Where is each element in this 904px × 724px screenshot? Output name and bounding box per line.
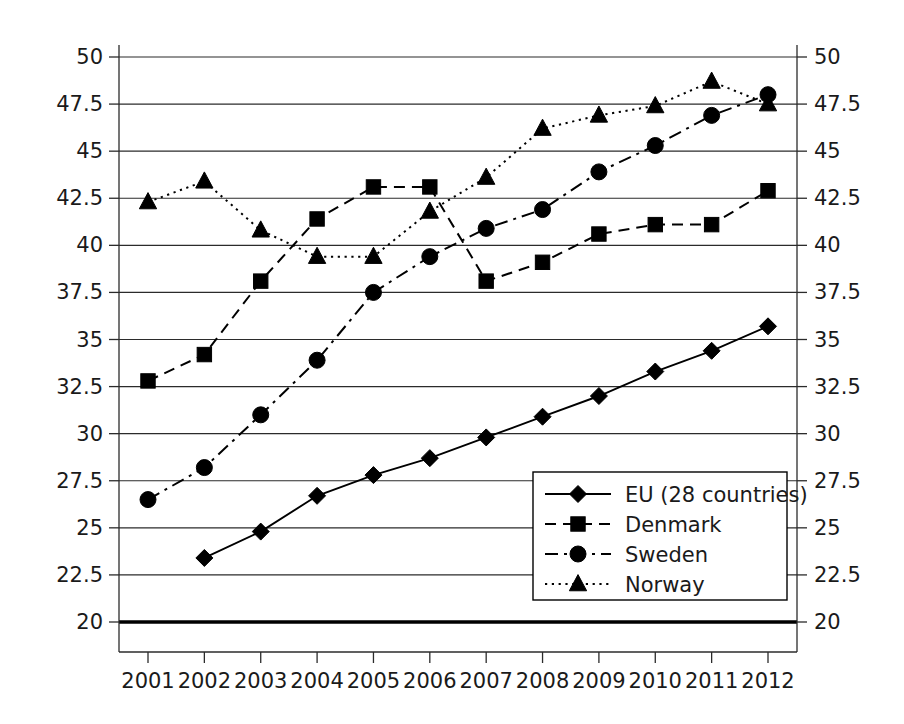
x-tick-label: 2001 xyxy=(121,669,174,693)
data-point-marker xyxy=(591,164,607,180)
data-point-marker xyxy=(421,202,438,218)
y-tick-label-left: 20 xyxy=(76,610,103,634)
data-point-marker xyxy=(590,388,607,405)
legend-marker-circle-icon xyxy=(570,546,586,562)
data-point-marker xyxy=(253,407,269,423)
data-point-marker xyxy=(478,429,495,446)
chart-canvas: 2022.52527.53032.53537.54042.54547.550 2… xyxy=(0,0,904,724)
legend-label: Denmark xyxy=(625,513,722,537)
y-tick-label-right: 50 xyxy=(814,45,841,69)
data-point-marker xyxy=(534,119,551,135)
y-tick-label-right: 20 xyxy=(814,610,841,634)
x-tick-label: 2008 xyxy=(516,669,569,693)
y-tick-label-right: 27.5 xyxy=(814,469,861,493)
legend-marker-square-icon xyxy=(571,517,585,531)
legend-label: EU (28 countries) xyxy=(625,483,808,507)
data-point-marker xyxy=(647,363,664,380)
y-tick-label-right: 22.5 xyxy=(814,563,861,587)
data-point-marker xyxy=(647,97,664,113)
y-axis-right-ticks: 2022.52527.53032.53537.54042.54547.550 xyxy=(797,45,861,634)
data-point-marker xyxy=(196,549,213,566)
series-denmark xyxy=(141,180,775,388)
data-point-marker xyxy=(139,193,156,209)
data-point-marker xyxy=(703,342,720,359)
y-tick-label-left: 37.5 xyxy=(56,280,103,304)
data-point-marker xyxy=(309,487,326,504)
y-tick-label-left: 27.5 xyxy=(56,469,103,493)
x-tick-label: 2007 xyxy=(459,669,512,693)
y-tick-label-right: 47.5 xyxy=(814,92,861,116)
data-point-marker xyxy=(534,408,551,425)
data-point-marker xyxy=(254,274,268,288)
y-tick-label-left: 47.5 xyxy=(56,92,103,116)
data-point-marker xyxy=(761,184,775,198)
y-tick-label-left: 30 xyxy=(76,422,103,446)
series-line xyxy=(148,187,768,381)
data-point-marker xyxy=(366,180,380,194)
data-point-marker xyxy=(648,217,662,231)
data-point-marker xyxy=(423,180,437,194)
data-point-marker xyxy=(535,255,549,269)
x-tick-label: 2004 xyxy=(290,669,343,693)
y-tick-label-right: 42.5 xyxy=(814,186,861,210)
x-axis-ticks: 2001200220032004200520062007200820092010… xyxy=(121,652,794,693)
y-tick-label-right: 35 xyxy=(814,328,841,352)
y-tick-label-right: 32.5 xyxy=(814,375,861,399)
data-point-marker xyxy=(478,168,495,184)
legend-label: Norway xyxy=(625,573,705,597)
y-tick-label-right: 25 xyxy=(814,516,841,540)
data-point-marker xyxy=(647,138,663,154)
data-point-marker xyxy=(365,247,382,263)
y-tick-label-right: 40 xyxy=(814,233,841,257)
x-tick-label: 2002 xyxy=(178,669,231,693)
series-line xyxy=(148,81,768,256)
data-point-marker xyxy=(365,284,381,300)
data-point-marker xyxy=(479,274,493,288)
y-axis-left-ticks: 2022.52527.53032.53537.54042.54547.550 xyxy=(56,45,119,634)
data-point-marker xyxy=(703,72,720,88)
x-tick-label: 2012 xyxy=(741,669,794,693)
y-tick-label-left: 40 xyxy=(76,233,103,257)
y-tick-label-left: 32.5 xyxy=(56,375,103,399)
line-chart: 2022.52527.53032.53537.54042.54547.550 2… xyxy=(0,0,904,724)
y-tick-label-left: 35 xyxy=(76,328,103,352)
data-point-marker xyxy=(252,221,269,237)
y-tick-label-right: 37.5 xyxy=(814,280,861,304)
x-tick-label: 2009 xyxy=(572,669,625,693)
data-point-marker xyxy=(422,249,438,265)
data-point-marker xyxy=(592,227,606,241)
chart-legend: EU (28 countries)DenmarkSwedenNorway xyxy=(533,472,808,600)
data-point-marker xyxy=(478,220,494,236)
y-tick-label-right: 30 xyxy=(814,422,841,446)
x-tick-label: 2005 xyxy=(347,669,400,693)
series-sweden xyxy=(140,87,776,508)
data-point-marker xyxy=(252,523,269,540)
series-line xyxy=(148,95,768,500)
data-point-marker xyxy=(196,172,213,188)
data-point-marker xyxy=(141,374,155,388)
data-point-marker xyxy=(590,106,607,122)
data-point-marker xyxy=(140,492,156,508)
y-tick-label-left: 25 xyxy=(76,516,103,540)
x-tick-label: 2011 xyxy=(685,669,738,693)
x-tick-label: 2006 xyxy=(403,669,456,693)
data-point-marker xyxy=(310,212,324,226)
data-point-marker xyxy=(197,347,211,361)
data-point-marker xyxy=(421,450,438,467)
data-point-marker xyxy=(704,107,720,123)
legend-label: Sweden xyxy=(625,543,708,567)
x-tick-label: 2010 xyxy=(629,669,682,693)
y-tick-label-left: 50 xyxy=(76,45,103,69)
data-point-marker xyxy=(308,247,325,263)
y-tick-label-left: 45 xyxy=(76,139,103,163)
x-tick-label: 2003 xyxy=(234,669,287,693)
data-point-marker xyxy=(309,352,325,368)
y-tick-label-left: 42.5 xyxy=(56,186,103,210)
data-point-marker xyxy=(535,202,551,218)
data-point-marker xyxy=(704,217,718,231)
y-tick-label-left: 22.5 xyxy=(56,563,103,587)
data-point-marker xyxy=(760,318,777,335)
y-tick-label-right: 45 xyxy=(814,139,841,163)
data-point-marker xyxy=(196,460,212,476)
